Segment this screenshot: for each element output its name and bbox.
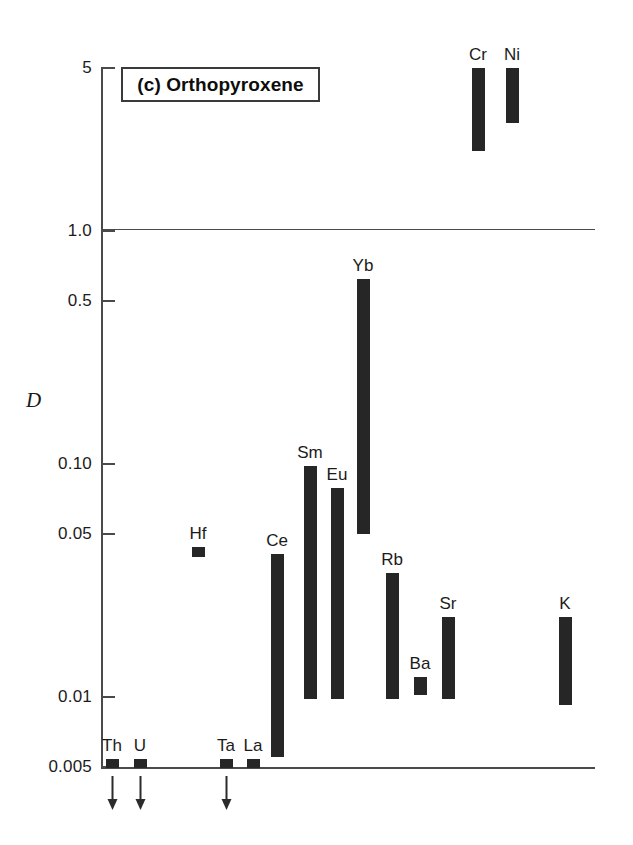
y-tick-label-0.10: 0.10: [22, 454, 92, 474]
y-tick-0.10: [101, 463, 115, 464]
bar-cr: [472, 68, 485, 151]
bar-sr: [442, 617, 455, 699]
bar-la: [247, 759, 260, 768]
bar-hf: [192, 547, 205, 557]
y-tick-label-0.05: 0.05: [22, 524, 92, 544]
bar-sm: [304, 466, 317, 699]
element-label-eu: Eu: [327, 465, 348, 485]
bar-k: [559, 617, 572, 705]
element-label-u: U: [134, 736, 146, 756]
y-tick-label-5: 5: [22, 58, 92, 78]
chart-figure: D (c) Orthopyroxene 51.00.50.100.050.010…: [0, 0, 633, 845]
element-label-cr: Cr: [469, 45, 487, 65]
bar-rb: [386, 573, 399, 699]
gridline-unity: [101, 229, 595, 230]
element-label-sr: Sr: [440, 594, 457, 614]
y-tick-1.0: [101, 230, 115, 231]
y-tick-0.5: [101, 300, 115, 301]
element-label-k: K: [559, 594, 570, 614]
element-label-ce: Ce: [266, 531, 288, 551]
bar-u: [134, 759, 147, 768]
element-label-th: Th: [102, 736, 122, 756]
panel-label-box: (c) Orthopyroxene: [121, 67, 320, 102]
y-tick-label-1.0: 1.0: [22, 221, 92, 241]
bar-ta: [220, 759, 233, 768]
bar-eu: [331, 488, 344, 699]
element-label-sm: Sm: [297, 443, 323, 463]
bar-ni: [506, 68, 519, 123]
y-tick-label-0.005: 0.005: [22, 757, 92, 777]
bar-yb: [357, 279, 370, 534]
y-tick-0.01: [101, 696, 115, 697]
y-axis-title: D: [26, 388, 41, 413]
y-tick-label-0.5: 0.5: [22, 291, 92, 311]
bar-th: [106, 759, 119, 768]
element-label-la: La: [244, 736, 263, 756]
x-axis-line: [101, 767, 595, 769]
y-tick-0.05: [101, 533, 115, 534]
element-label-ta: Ta: [217, 736, 235, 756]
element-label-ni: Ni: [504, 45, 520, 65]
bar-ce: [271, 554, 284, 757]
element-label-hf: Hf: [190, 524, 207, 544]
element-label-rb: Rb: [381, 550, 403, 570]
y-tick-label-0.01: 0.01: [22, 687, 92, 707]
y-axis-line: [101, 68, 103, 768]
panel-label-text: (c) Orthopyroxene: [137, 74, 303, 96]
element-label-yb: Yb: [353, 256, 374, 276]
bar-ba: [414, 677, 427, 695]
y-tick-5: [101, 67, 115, 68]
element-label-ba: Ba: [410, 654, 431, 674]
